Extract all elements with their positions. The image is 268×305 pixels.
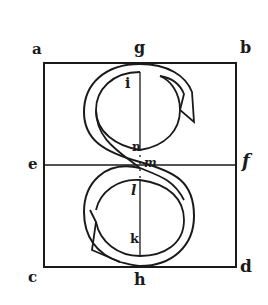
label-m: m	[144, 157, 157, 169]
label-k: k	[130, 232, 139, 245]
label-a: a	[32, 42, 42, 57]
upper-inner-bowl	[96, 72, 180, 150]
label-c: c	[28, 270, 37, 285]
label-b: b	[240, 40, 251, 56]
upper-terminal	[140, 64, 194, 122]
label-d: d	[240, 258, 252, 275]
label-i: i	[125, 76, 130, 90]
label-l: l	[131, 183, 136, 197]
label-g: g	[134, 40, 145, 56]
label-n: n	[132, 141, 141, 153]
label-e: e	[28, 157, 38, 172]
label-h: h	[134, 272, 146, 288]
label-f: f	[242, 152, 250, 170]
